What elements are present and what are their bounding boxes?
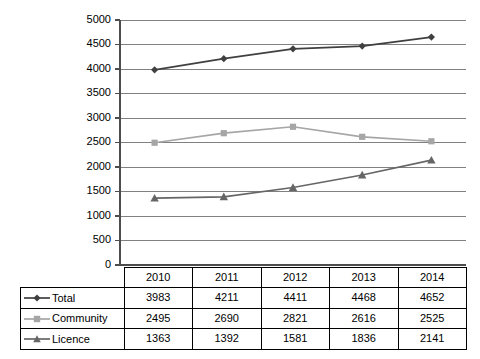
table-row: Licence13631392158118362141 [21, 329, 467, 350]
table-cell: 2495 [124, 308, 193, 329]
legend-swatch-diamond [24, 291, 50, 305]
legend-label: Licence [52, 330, 90, 349]
table-column-header-2014: 2014 [398, 268, 467, 288]
legend-cell-total: Total [21, 288, 125, 309]
legend-swatch-square [24, 312, 50, 326]
table-corner-cell [21, 268, 125, 288]
data-point-marker-square [152, 140, 158, 146]
table-row: Community24952690282126162525 [21, 308, 467, 329]
legend-label: Community [52, 309, 108, 328]
table-cell: 2141 [398, 329, 467, 350]
series-total [151, 33, 435, 73]
y-axis-tick-label: 5000 [87, 13, 111, 25]
y-axis-labels-group: 0500100015002000250030003500400045005000 [87, 13, 111, 270]
data-table: 20102011201220132014Total398342114411446… [20, 267, 467, 350]
y-axis-tick-label: 2000 [87, 160, 111, 172]
table-column-header-2010: 2010 [124, 268, 193, 288]
legend-cell-licence: Licence [21, 329, 125, 350]
table-column-header-2011: 2011 [193, 268, 262, 288]
table-row: Total39834211441144684652 [21, 288, 467, 309]
table-cell: 1392 [193, 329, 262, 350]
table-cell: 2690 [193, 308, 262, 329]
data-point-marker-square [290, 124, 296, 130]
line-chart-figure: 0500100015002000250030003500400045005000 [0, 0, 480, 270]
y-axis-tick-label: 3500 [87, 86, 111, 98]
data-point-marker-diamond [151, 66, 158, 73]
y-axis-tick-label: 2500 [87, 135, 111, 147]
series-licence [150, 156, 435, 202]
legend-label: Total [52, 289, 75, 308]
legend-swatch-triangle [24, 332, 50, 346]
table-column-header-2012: 2012 [261, 268, 330, 288]
table-cell: 3983 [124, 288, 193, 309]
y-axis-tick-label: 500 [93, 233, 111, 245]
series-line-total [155, 37, 432, 70]
table-column-header-2013: 2013 [330, 268, 399, 288]
table-cell: 4652 [398, 288, 467, 309]
y-axis-tick-label: 3000 [87, 111, 111, 123]
table-cell: 4211 [193, 288, 262, 309]
data-point-marker-square [221, 130, 227, 136]
data-point-marker-square [428, 138, 434, 144]
table-cell: 1363 [124, 329, 193, 350]
table-cell: 4411 [261, 288, 330, 309]
data-point-marker-triangle [427, 156, 435, 164]
data-point-marker-diamond [428, 33, 435, 40]
table-cell: 1836 [330, 329, 399, 350]
data-point-marker-diamond [220, 55, 227, 62]
table-cell: 2821 [261, 308, 330, 329]
table-cell: 2525 [398, 308, 467, 329]
data-point-marker-diamond [289, 45, 296, 52]
y-axis-ticks-group [115, 20, 120, 265]
table-cell: 2616 [330, 308, 399, 329]
table-cell: 1581 [261, 329, 330, 350]
table-cell: 4468 [330, 288, 399, 309]
series-line-licence [155, 160, 432, 198]
plot-area: 0500100015002000250030003500400045005000 [0, 0, 480, 270]
y-axis-tick-label: 1500 [87, 184, 111, 196]
data-point-marker-square [359, 134, 365, 140]
table-header-row: 20102011201220132014 [21, 268, 467, 288]
y-axis-tick-label: 4500 [87, 37, 111, 49]
y-axis-tick-label: 1000 [87, 209, 111, 221]
legend-cell-community: Community [21, 308, 125, 329]
gridlines-group [120, 20, 466, 265]
data-point-marker-diamond [359, 42, 366, 49]
y-axis-tick-label: 4000 [87, 62, 111, 74]
chart-page: 0500100015002000250030003500400045005000… [0, 0, 480, 359]
